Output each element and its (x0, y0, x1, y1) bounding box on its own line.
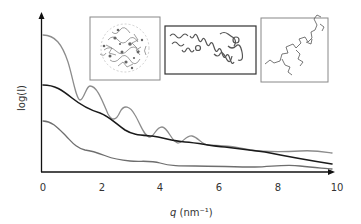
inset-elongated (165, 26, 256, 74)
inset-globular (90, 17, 160, 80)
x-tick-labels: 0 2 4 6 8 10 (40, 182, 344, 193)
x-axis-arrow-icon (328, 169, 335, 175)
x-axis-label: q (nm⁻¹) (170, 207, 213, 218)
saxs-profile-chart: 0 2 4 6 8 10 q (nm⁻¹) log(I) (0, 0, 361, 224)
y-axis (39, 12, 45, 172)
x-tick-4: 4 (157, 182, 163, 193)
x-tick-0: 0 (40, 182, 46, 193)
y-axis-arrow-icon (39, 12, 45, 19)
x-tick-10: 10 (331, 182, 344, 193)
curve-disordered (43, 121, 332, 169)
x-tick-6: 6 (216, 182, 222, 193)
x-tick-8: 8 (275, 182, 281, 193)
y-axis-label: log(I) (16, 85, 27, 111)
curve-elongated (43, 85, 332, 164)
inset-disordered (261, 15, 328, 82)
x-axis (41, 169, 335, 175)
x-tick-2: 2 (99, 182, 105, 193)
